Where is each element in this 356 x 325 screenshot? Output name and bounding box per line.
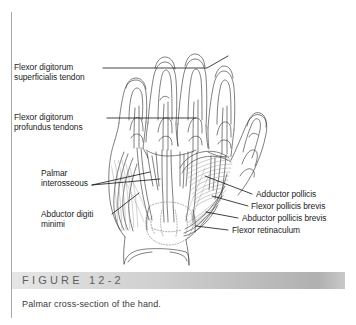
label-line-1: Flexor digitorum: [14, 112, 83, 122]
label-line-1: Flexor digitorum: [14, 62, 85, 72]
label-line-2: interosseous: [41, 178, 88, 188]
label-line-1: Palmar: [41, 168, 88, 178]
label-flexor-digitorum-superficialis-tendon: Flexor digitorum superficialis tendon: [14, 62, 85, 82]
label-abductor-pollicis-brevis: Abductor pollicis brevis: [242, 213, 326, 223]
label-line-1: Abductor digiti: [41, 209, 93, 219]
figure-page: Flexor digitorum superficialis tendon Fl…: [0, 0, 356, 325]
label-flexor-retinaculum: Flexor retinaculum: [232, 225, 300, 235]
label-line-2: profundus tendons: [14, 122, 83, 132]
label-palmar-interosseous: Palmar interosseous: [41, 168, 88, 188]
label-line-2: superficialis tendon: [14, 72, 85, 82]
label-flexor-pollicis-brevis: Flexor pollicis brevis: [251, 201, 325, 211]
label-line-2: minimi: [41, 219, 93, 229]
figure-number: FIGURE 12-2: [22, 274, 124, 286]
label-flexor-digitorum-profundus-tendons: Flexor digitorum profundus tendons: [14, 112, 83, 132]
label-adductor-pollicis: Adductor pollicis: [256, 189, 316, 199]
figure-caption: Palmar cross-section of the hand.: [22, 299, 161, 309]
label-abductor-digiti-minimi: Abductor digiti minimi: [41, 209, 93, 229]
